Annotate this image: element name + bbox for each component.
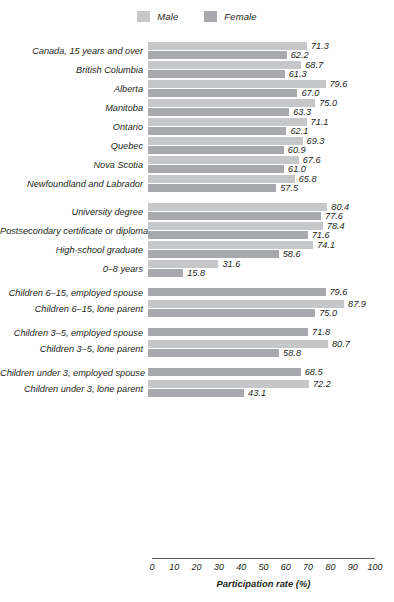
bar-line-female: 67.0 bbox=[148, 89, 394, 97]
bar-female bbox=[148, 146, 284, 154]
bar-line-female: 61.0 bbox=[148, 165, 394, 173]
row-category-label: 0–8 years bbox=[0, 265, 148, 275]
row-bars: 71.362.2 bbox=[148, 42, 394, 61]
axis-line bbox=[152, 558, 375, 559]
bar-line-female: 62.2 bbox=[148, 51, 394, 59]
row-bars: 71.162.1 bbox=[148, 118, 394, 137]
axis-title: Participation rate (%) bbox=[152, 578, 375, 589]
bar-value-label: 69.3 bbox=[307, 136, 325, 146]
bar-female bbox=[148, 368, 301, 376]
bar-value-label: 77.6 bbox=[325, 211, 343, 221]
row-bars: 71.8 bbox=[148, 328, 394, 340]
bar-male bbox=[148, 137, 303, 145]
axis-tick-80: 80 bbox=[325, 562, 335, 572]
row-category-label: University degree bbox=[0, 208, 148, 218]
bar-line-male: 74.1 bbox=[148, 241, 394, 249]
chart-row: Newfoundland and Labrador65.857.5 bbox=[0, 175, 394, 194]
legend-item-male: Male bbox=[137, 11, 178, 22]
bar-value-label: 65.8 bbox=[299, 174, 317, 184]
row-bars: 67.661.0 bbox=[148, 156, 394, 175]
bar-male bbox=[148, 222, 323, 230]
bar-line-male: 71.1 bbox=[148, 118, 394, 126]
axis-tick-50: 50 bbox=[258, 562, 268, 572]
bar-value-label: 67.0 bbox=[301, 88, 319, 98]
axis-tick-labels: 0102030405060708090100 bbox=[0, 562, 394, 576]
chart-row: University degree80.477.6 bbox=[0, 203, 394, 222]
bar-female bbox=[148, 389, 244, 397]
bar-value-label: 87.9 bbox=[348, 299, 366, 309]
bar-line-female: 57.5 bbox=[148, 184, 394, 192]
chart-row: Postsecondary certificate or diploma78.4… bbox=[0, 222, 394, 241]
bar-line-female: 71.8 bbox=[148, 328, 394, 336]
row-bars: 80.758.8 bbox=[148, 340, 394, 359]
bar-value-label: 58.6 bbox=[283, 249, 301, 259]
bar-female bbox=[148, 108, 289, 116]
axis-tick-30: 30 bbox=[214, 562, 224, 572]
bar-female bbox=[148, 51, 287, 59]
bar-value-label: 31.6 bbox=[222, 259, 240, 269]
bar-value-label: 60.9 bbox=[288, 145, 306, 155]
bar-value-label: 80.7 bbox=[332, 339, 350, 349]
bar-line-female: 60.9 bbox=[148, 146, 394, 154]
bar-line-female: 58.6 bbox=[148, 250, 394, 258]
bar-line-male: 31.6 bbox=[148, 260, 394, 268]
bar-male bbox=[148, 118, 307, 126]
bar-line-male: 75.0 bbox=[148, 99, 394, 107]
legend-swatch-female bbox=[204, 11, 217, 22]
bar-line-male: 68.7 bbox=[148, 61, 394, 69]
bar-female bbox=[148, 165, 284, 173]
bar-value-label: 58.8 bbox=[283, 348, 301, 358]
bar-value-label: 57.5 bbox=[280, 183, 298, 193]
chart-row: Alberta79.667.0 bbox=[0, 80, 394, 99]
bar-line-female: 77.6 bbox=[148, 212, 394, 220]
row-bars: 69.360.9 bbox=[148, 137, 394, 156]
bar-value-label: 79.6 bbox=[330, 79, 348, 89]
row-category-label: Children 3–5, lone parent bbox=[0, 345, 148, 355]
chart-row: Manitoba75.063.3 bbox=[0, 99, 394, 118]
chart-legend: Male Female bbox=[0, 11, 394, 22]
bar-female bbox=[148, 309, 315, 317]
bar-value-label: 71.8 bbox=[312, 327, 330, 337]
bar-female bbox=[148, 70, 285, 78]
bar-value-label: 62.2 bbox=[291, 50, 309, 60]
bar-male bbox=[148, 260, 218, 268]
bar-line-female: 68.5 bbox=[148, 368, 394, 376]
row-category-label: Manitoba bbox=[0, 104, 148, 114]
bar-value-label: 62.1 bbox=[290, 126, 308, 136]
bar-line-female: 62.1 bbox=[148, 127, 394, 135]
bar-value-label: 63.3 bbox=[293, 107, 311, 117]
row-bars: 80.477.6 bbox=[148, 203, 394, 222]
chart-row: 0–8 years31.615.8 bbox=[0, 260, 394, 279]
axis-tick-100: 100 bbox=[367, 562, 382, 572]
legend-label-female: Female bbox=[224, 11, 256, 22]
bar-line-male: 78.4 bbox=[148, 222, 394, 230]
row-category-label: Alberta bbox=[0, 85, 148, 95]
row-category-label: Canada, 15 years and over bbox=[0, 47, 148, 57]
axis-tick-20: 20 bbox=[192, 562, 202, 572]
bar-male bbox=[148, 80, 326, 88]
bar-line-male: 80.7 bbox=[148, 340, 394, 348]
row-bars: 78.471.6 bbox=[148, 222, 394, 241]
bar-line-male: 67.6 bbox=[148, 156, 394, 164]
bar-value-label: 74.1 bbox=[317, 240, 335, 250]
bar-male bbox=[148, 175, 295, 183]
bar-male bbox=[148, 42, 307, 50]
chart-row: Nova Scotia67.661.0 bbox=[0, 156, 394, 175]
bar-line-female: 61.3 bbox=[148, 70, 394, 78]
row-bars: 68.5 bbox=[148, 368, 394, 380]
axis-tick-40: 40 bbox=[236, 562, 246, 572]
bar-line-male: 87.9 bbox=[148, 300, 394, 308]
bar-line-male: 80.4 bbox=[148, 203, 394, 211]
bar-value-label: 43.1 bbox=[248, 388, 266, 398]
row-category-label: British Columbia bbox=[0, 66, 148, 76]
bar-line-female: 71.6 bbox=[148, 231, 394, 239]
bar-female bbox=[148, 231, 308, 239]
bar-female bbox=[148, 127, 286, 135]
row-category-label: Ontario bbox=[0, 123, 148, 133]
bar-female bbox=[148, 288, 326, 296]
chart-row: Children 3–5, lone parent80.758.8 bbox=[0, 340, 394, 359]
bar-female bbox=[148, 269, 183, 277]
axis-tick-10: 10 bbox=[169, 562, 179, 572]
bar-line-male: 71.3 bbox=[148, 42, 394, 50]
chart-row: Children under 3, lone parent72.243.1 bbox=[0, 380, 394, 399]
